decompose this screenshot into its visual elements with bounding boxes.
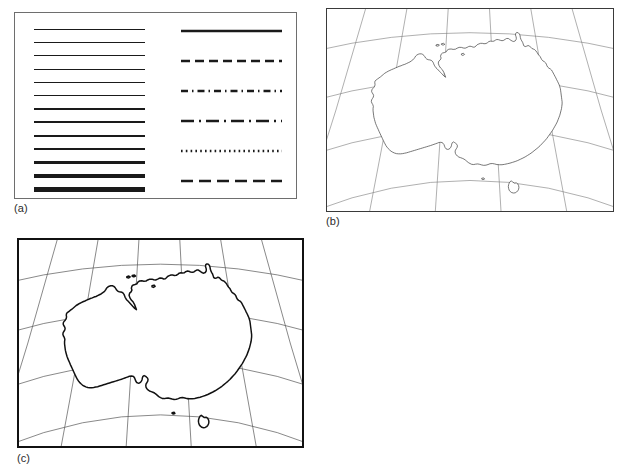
graticule-line: [327, 180, 613, 211]
figure-root: (a) (b) (c): [0, 0, 621, 476]
tasmania-outline: [198, 415, 208, 427]
island-outline: [127, 276, 130, 278]
line-weight-specimen: [34, 55, 145, 56]
line-weight-specimen: [34, 187, 145, 191]
line-weight-row: [34, 174, 145, 178]
panel-b-label: (b): [326, 216, 340, 227]
line-weight-row: [34, 29, 145, 30]
graticule-line: [259, 240, 302, 446]
panel-a-frame: [14, 12, 297, 199]
panel-c-frame: [17, 238, 304, 448]
line-weight-row: [34, 82, 145, 83]
panel-b-frame: [326, 8, 614, 212]
line-weight-specimen: [34, 42, 145, 43]
line-weight-specimen: [34, 135, 145, 137]
line-weight-specimen: [34, 174, 145, 178]
line-weight-specimen: [34, 69, 145, 70]
island-outline: [482, 178, 485, 180]
panel-c-map-thick: [17, 238, 304, 448]
island-outline: [436, 44, 439, 46]
island-outline: [441, 43, 444, 45]
graticule-line: [19, 240, 60, 446]
line-weight-row: [34, 108, 145, 110]
coastline: [371, 32, 562, 193]
line-weight-row: [34, 69, 145, 70]
line-weight-specimen: [34, 29, 145, 30]
panel-b-map-thin: [326, 8, 614, 212]
line-weight-specimen: [34, 108, 145, 110]
island-outline: [132, 275, 135, 277]
australia-mainland-outline: [63, 264, 252, 400]
tasmania-outline: [508, 181, 519, 193]
line-weight-row: [34, 148, 145, 151]
panel-a-line-specimens: [14, 12, 297, 199]
panel-a-label: (a): [14, 203, 28, 214]
line-weight-specimen: [34, 148, 145, 151]
line-weight-specimen: [34, 82, 145, 83]
line-weight-specimen: [34, 161, 145, 164]
australia-mainland-outline: [371, 32, 562, 165]
graticule-line: [569, 9, 613, 211]
island-outline: [461, 53, 464, 55]
island-outline: [152, 285, 155, 287]
graticule-line: [19, 415, 302, 446]
line-weight-row: [34, 42, 145, 43]
line-weight-row: [34, 187, 145, 191]
coastline: [63, 264, 252, 428]
panel-c-label: (c): [17, 453, 30, 464]
line-weight-row: [34, 55, 145, 56]
line-style-column: [181, 29, 282, 187]
line-weight-row: [34, 135, 145, 137]
australia-map-thick: [19, 240, 302, 446]
line-weight-specimen: [34, 95, 145, 96]
line-style-svg: [181, 29, 282, 187]
island-outline: [172, 412, 175, 414]
line-weight-row: [34, 121, 145, 123]
australia-map-thin: [327, 9, 613, 211]
graticule-line: [327, 9, 368, 211]
line-weight-row: [34, 95, 145, 96]
line-weight-row: [34, 161, 145, 164]
line-weight-specimen: [34, 121, 145, 123]
line-weight-column: [34, 29, 145, 187]
